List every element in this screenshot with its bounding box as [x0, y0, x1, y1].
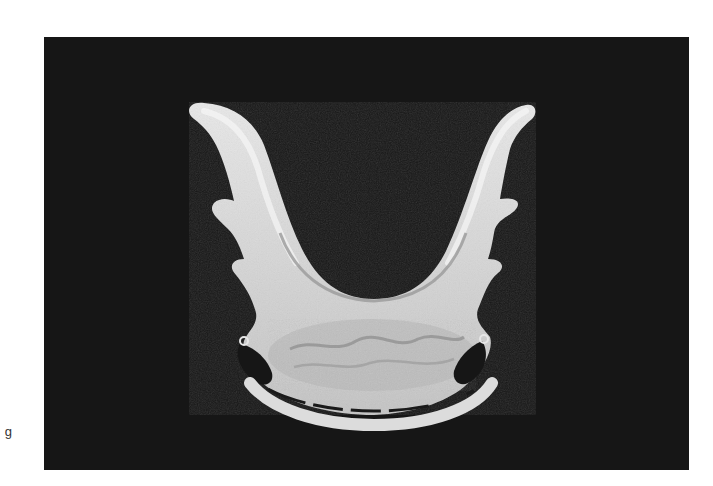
clipped-caption-text: g [0, 424, 12, 440]
palatal-texture-region [268, 319, 476, 391]
appliance-illustration [44, 37, 689, 470]
appliance-photo [44, 37, 689, 470]
